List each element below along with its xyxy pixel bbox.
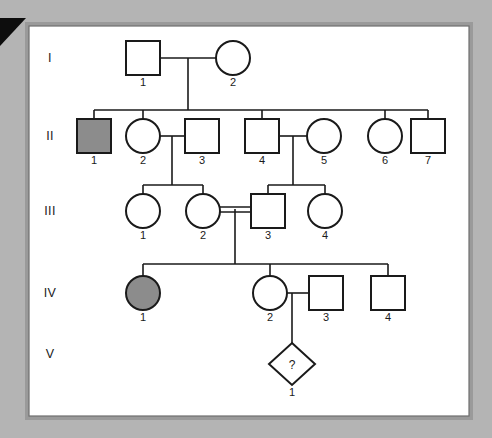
symbol-circle-unaffected[interactable] [126, 119, 160, 153]
symbol-square-unaffected[interactable] [126, 41, 160, 75]
individual-number: 1 [140, 311, 146, 323]
individual-number: 7 [425, 154, 431, 166]
individual-number: 4 [259, 154, 265, 166]
symbol-circle-unaffected[interactable] [307, 119, 341, 153]
individual-number: 1 [289, 386, 295, 398]
individual-number: 3 [199, 154, 205, 166]
symbol-circle-affected[interactable] [126, 276, 160, 310]
individual-number: 3 [265, 229, 271, 241]
symbol-square-unaffected[interactable] [411, 119, 445, 153]
individual-number: 1 [140, 76, 146, 88]
symbol-square-unaffected[interactable] [185, 119, 219, 153]
individual-number: 2 [140, 154, 146, 166]
unknown-sex-question-mark: ? [289, 358, 296, 372]
pedigree-chart: I II III IV V [0, 0, 492, 438]
individual-number: 4 [322, 229, 328, 241]
generation-label-II: II [46, 129, 54, 143]
symbol-circle-unaffected[interactable] [253, 276, 287, 310]
individual-number: 1 [140, 229, 146, 241]
symbol-circle-unaffected[interactable] [308, 194, 342, 228]
symbol-square-unaffected[interactable] [251, 194, 285, 228]
individual-number: 6 [382, 154, 388, 166]
symbol-circle-unaffected[interactable] [368, 119, 402, 153]
individual-number: 4 [385, 311, 391, 323]
generation-label-I: I [48, 51, 52, 65]
panel-surface [29, 26, 469, 416]
symbol-circle-unaffected[interactable] [216, 41, 250, 75]
pedigree-figure: I II III IV V [0, 0, 492, 438]
individual-number: 2 [267, 311, 273, 323]
symbol-square-unaffected[interactable] [309, 276, 343, 310]
individual-number: 3 [323, 311, 329, 323]
symbol-square-unaffected[interactable] [245, 119, 279, 153]
generation-label-IV: IV [44, 286, 57, 300]
generation-label-III: III [44, 204, 56, 218]
generation-label-V: V [46, 347, 55, 361]
individual-number: 1 [91, 154, 97, 166]
symbol-circle-unaffected[interactable] [126, 194, 160, 228]
individual-number: 2 [200, 229, 206, 241]
symbol-square-affected[interactable] [77, 119, 111, 153]
symbol-square-unaffected[interactable] [371, 276, 405, 310]
individual-number: 5 [321, 154, 327, 166]
individual-number: 2 [230, 76, 236, 88]
symbol-circle-unaffected[interactable] [186, 194, 220, 228]
